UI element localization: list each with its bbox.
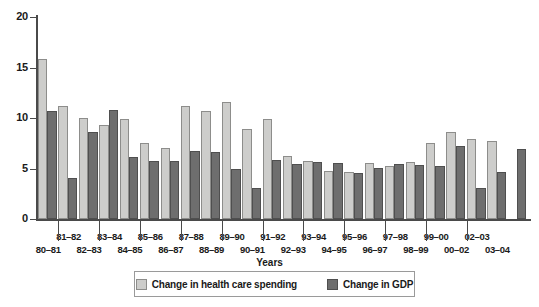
- x-axis-tick: [385, 221, 386, 241]
- bar: [467, 139, 476, 219]
- bar: [426, 143, 435, 219]
- x-axis-tick: [426, 221, 427, 241]
- bar: [47, 111, 56, 219]
- y-axis-tick: [30, 17, 37, 18]
- bar: [211, 152, 220, 219]
- bar: [385, 166, 394, 219]
- bar: [324, 171, 333, 219]
- bar: [292, 164, 301, 219]
- y-axis-tick: [30, 118, 37, 119]
- bar: [497, 172, 506, 219]
- bar: [487, 141, 496, 219]
- bar: [476, 188, 485, 219]
- x-axis-tick-label: 02–03: [453, 232, 501, 242]
- bar: [415, 165, 424, 219]
- bar: [140, 143, 149, 219]
- y-axis-tick-label: 5: [2, 163, 28, 174]
- bar: [201, 111, 210, 219]
- legend-label: Change in health care spending: [152, 279, 297, 290]
- bar: [272, 160, 281, 219]
- bar: [231, 169, 240, 220]
- bar: [333, 163, 342, 219]
- bar: [161, 148, 170, 219]
- x-axis-tick: [181, 221, 182, 241]
- bar: [252, 188, 261, 219]
- bar: [365, 163, 374, 219]
- bar: [88, 132, 97, 219]
- y-axis-tick-label: 10: [2, 112, 28, 123]
- bar: [99, 125, 108, 219]
- x-axis-tick-label: 03–04: [473, 245, 521, 255]
- bar: [394, 164, 403, 219]
- x-axis-tick: [99, 221, 100, 241]
- bar: [242, 129, 251, 219]
- x-axis-line: [36, 219, 531, 221]
- legend-swatch-icon-light: [136, 279, 147, 290]
- bar: [344, 172, 353, 219]
- bar: [354, 173, 363, 219]
- bar: [129, 157, 138, 219]
- bar: [446, 132, 455, 219]
- y-axis-tick: [30, 219, 37, 220]
- bar: [120, 119, 129, 219]
- x-axis-tick: [467, 221, 468, 241]
- bar: [435, 166, 444, 219]
- bar: [283, 156, 292, 219]
- y-axis-tick-label: 20: [2, 11, 28, 22]
- legend-item-gdp: Change in GDP: [327, 279, 413, 290]
- bar: [456, 146, 465, 219]
- chart-legend: Change in health care spending Change in…: [134, 271, 415, 297]
- legend-item-health-care-spending: Change in health care spending: [136, 279, 297, 290]
- x-axis-tick: [58, 221, 59, 241]
- y-axis-tick-label: 15: [2, 62, 28, 73]
- legend-label: Change in GDP: [343, 279, 413, 290]
- bar: [68, 178, 77, 219]
- bar: [406, 162, 415, 219]
- x-axis-tick: [303, 221, 304, 241]
- legend-swatch-icon-dark: [327, 279, 338, 290]
- bar: [313, 162, 322, 219]
- x-axis-tick: [263, 221, 264, 241]
- bar: [170, 161, 179, 219]
- x-axis-tick: [344, 221, 345, 241]
- bar: [149, 161, 158, 219]
- bar: [374, 168, 383, 220]
- x-axis-title: Years: [0, 257, 539, 268]
- x-axis-tick: [140, 221, 141, 241]
- bar: [222, 102, 231, 219]
- bar: [38, 59, 47, 219]
- bar: [79, 118, 88, 219]
- bar-series-group: [38, 17, 528, 219]
- y-axis-tick: [30, 68, 37, 69]
- bar: [190, 151, 199, 219]
- bar-chart: 05101520 80–8181–8282–8383–8484–8585–868…: [0, 0, 539, 307]
- bar: [58, 106, 67, 219]
- bar: [181, 106, 190, 219]
- y-axis-tick-label: 0: [2, 213, 28, 224]
- x-axis-tick: [222, 221, 223, 241]
- bar: [517, 149, 526, 219]
- bar: [109, 110, 118, 219]
- bar: [303, 161, 312, 219]
- bar: [263, 119, 272, 219]
- y-axis-tick: [30, 169, 37, 170]
